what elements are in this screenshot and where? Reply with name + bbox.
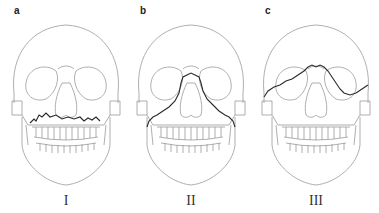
numeral-i: I: [64, 193, 69, 209]
skull-b-le-fort-ii: [137, 25, 245, 185]
numeral-iii: III: [309, 193, 323, 209]
skull-c-le-fort-iii: [262, 25, 370, 185]
skull-diagrams: [0, 0, 379, 213]
skull-a-le-fort-i: [12, 25, 120, 185]
numeral-ii: II: [186, 193, 195, 209]
